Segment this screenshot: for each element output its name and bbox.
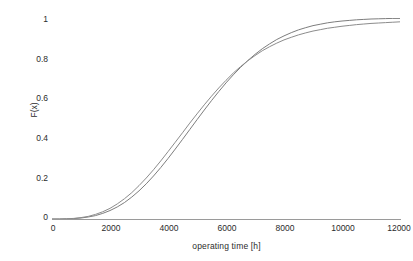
x-axis-title: operating time [h]: [52, 241, 401, 252]
x-axis-line: [52, 219, 401, 220]
x-tick-label-0: 0: [51, 223, 56, 233]
y-tick-label-0: 0: [4, 213, 48, 222]
plot-area: [52, 18, 400, 219]
y-tick-label-0-8: 0.8: [4, 55, 48, 64]
x-axis-tick-labels: 0 2000 4000 6000 8000 10000 12000: [0, 223, 413, 237]
y-axis-title: F(x): [29, 93, 39, 127]
x-tick-label-2000: 2000: [102, 223, 121, 233]
y-axis-tick-labels: 1 0.8 0.6 0.4 0.2 0: [0, 0, 48, 261]
x-tick-label-8000: 8000: [276, 223, 295, 233]
x-tick-label-4000: 4000: [160, 223, 179, 233]
y-tick-label-0-2: 0.2: [4, 174, 48, 183]
x-tick-label-10000: 10000: [331, 223, 355, 233]
y-tick-label-0-6: 0.6: [4, 94, 48, 103]
data-curve-1: [52, 18, 400, 219]
x-tick-label-6000: 6000: [218, 223, 237, 233]
data-curve-2: [52, 22, 400, 219]
x-tick-label-12000: 12000: [387, 223, 411, 233]
y-tick-label-0-4: 0.4: [4, 134, 48, 143]
curves-svg: [52, 18, 400, 219]
y-tick-label-1: 1: [4, 15, 48, 24]
chart-figure: 1 0.8 0.6 0.4 0.2 0 F(x) 0 2000 4000 600…: [0, 0, 413, 261]
